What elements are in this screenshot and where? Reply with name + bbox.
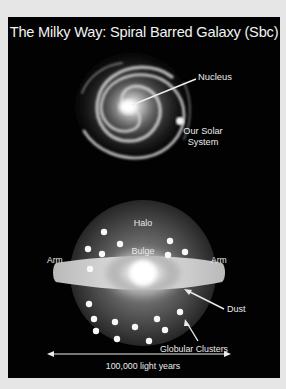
galactic-core: [130, 260, 156, 286]
label-solar-system-line2: System: [176, 137, 230, 147]
diagram-graphics: [8, 17, 280, 378]
label-globular-clusters: Globular Clusters: [160, 344, 228, 354]
label-halo: Halo: [123, 218, 163, 228]
label-dust: Dust: [227, 304, 246, 314]
label-bulge: Bulge: [120, 246, 166, 256]
label-nucleus: Nucleus: [198, 72, 232, 82]
label-scale: 100,000 light years: [68, 361, 218, 371]
label-solar-system-line1: Our Solar: [176, 126, 230, 136]
label-arm-right: Arm: [211, 255, 227, 265]
solar-system-marker: [176, 117, 184, 125]
diagram-panel: The Milky Way: Spiral Barred Galaxy (Sbc…: [8, 17, 280, 378]
label-arm-left: Arm: [47, 255, 63, 265]
